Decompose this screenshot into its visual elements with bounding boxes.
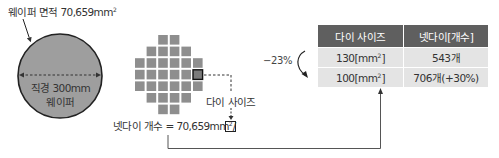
die-size-label: 다이 사이즈	[206, 94, 256, 109]
die	[147, 47, 157, 57]
die	[158, 93, 168, 103]
die	[181, 70, 191, 80]
table-row: 100[mm2] 706개(+30%)	[318, 68, 488, 88]
die-grid	[135, 35, 203, 114]
net-die-formula: 넷다이 개수 = 70,659mm2/	[113, 118, 236, 133]
decrease-percent-label: −23%	[263, 55, 292, 66]
die	[147, 58, 157, 68]
die	[170, 35, 180, 45]
die	[193, 58, 203, 68]
die	[181, 47, 191, 57]
die	[158, 81, 168, 91]
die	[135, 81, 145, 91]
die	[147, 70, 157, 80]
die	[158, 47, 168, 57]
decrease-arrow	[298, 51, 308, 78]
die	[147, 93, 157, 103]
table-row: 130[mm2] 543개	[318, 48, 488, 68]
die	[170, 105, 180, 115]
die	[170, 93, 180, 103]
cell-net-die-count: 706개(+30%)	[404, 68, 489, 88]
die	[193, 81, 203, 91]
die	[170, 70, 180, 80]
die	[158, 35, 168, 45]
die	[158, 58, 168, 68]
header-net-die: 넷다이[개수]	[404, 25, 489, 48]
wafer-diameter-label: 직경 300mm	[18, 80, 103, 95]
die	[147, 81, 157, 91]
highlighted-die	[193, 70, 203, 80]
die	[158, 105, 168, 115]
die-count-table: 다이 사이즈 넷다이[개수] 130[mm2] 543개 100[mm2] 70…	[318, 25, 488, 87]
die	[135, 70, 145, 80]
die	[135, 58, 145, 68]
wafer-area-label: 웨이퍼 면적 70,659mm2	[8, 4, 117, 19]
header-die-size: 다이 사이즈	[318, 25, 404, 48]
wafer-name-label: 웨이퍼	[18, 94, 103, 109]
die	[181, 93, 191, 103]
die	[170, 47, 180, 57]
die	[181, 81, 191, 91]
die	[170, 81, 180, 91]
die	[181, 58, 191, 68]
die	[158, 70, 168, 80]
cell-net-die-count: 543개	[404, 48, 489, 68]
cell-die-size: 130[mm2]	[318, 48, 404, 68]
table-header-row: 다이 사이즈 넷다이[개수]	[318, 25, 488, 48]
cell-die-size: 100[mm2]	[318, 68, 404, 88]
die	[170, 58, 180, 68]
